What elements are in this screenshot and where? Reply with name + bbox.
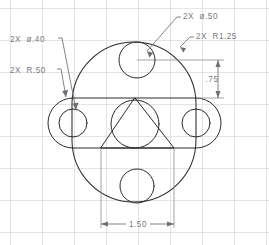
drawing-svg: 2X ø.40 2X R.50 2X ø.50 2X R1.25 .75 1.5… xyxy=(0,0,269,245)
leader-r-50-arrowhead xyxy=(62,90,68,97)
inner-triangle xyxy=(101,98,174,148)
dimension-value-150: 1.50 xyxy=(129,220,147,229)
bottom-hole-circle xyxy=(120,169,154,203)
annotation-r-125: 2X R1.25 xyxy=(196,32,237,41)
holes-group xyxy=(59,42,210,203)
dimension-value-75: .75 xyxy=(206,75,219,84)
horizontal-dimension-150 xyxy=(101,149,174,228)
dim-150-arrow-left xyxy=(101,222,108,227)
engineering-drawing-canvas: 2X ø.40 2X R.50 2X ø.50 2X R1.25 .75 1.5… xyxy=(0,0,269,245)
annotation-dia-40: 2X ø.40 xyxy=(10,35,45,44)
leader-r-125 xyxy=(180,37,194,47)
annotation-dia-50: 2X ø.50 xyxy=(183,12,218,21)
leader-dia-40 xyxy=(58,38,76,110)
dim-75-arrow-top xyxy=(216,60,221,67)
leader-lines-group xyxy=(57,17,194,110)
leader-r-125-arrowhead xyxy=(180,47,186,53)
leader-dia-50 xyxy=(147,17,181,51)
left-hole-circle xyxy=(59,109,87,137)
annotation-r-50: 2X R.50 xyxy=(10,66,46,75)
dim-75-arrow-bottom xyxy=(216,91,221,98)
main-body-outline xyxy=(72,42,196,202)
leader-dia-50-arrowhead xyxy=(147,51,153,58)
center-hole-circle xyxy=(111,100,159,148)
